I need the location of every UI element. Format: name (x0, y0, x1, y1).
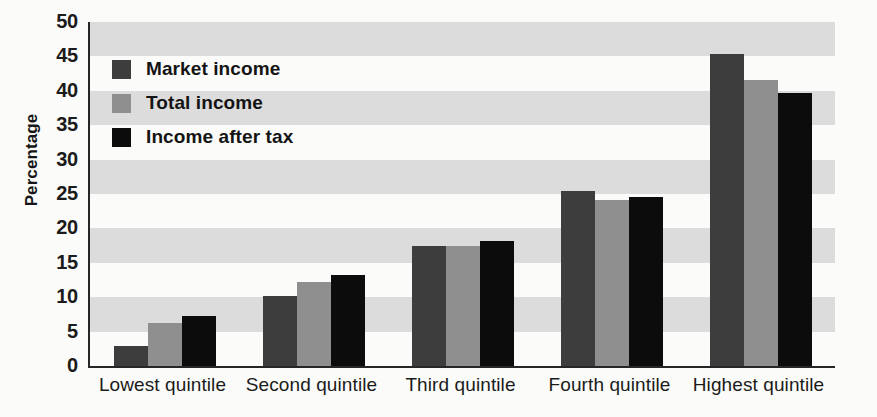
legend-item: Market income (112, 52, 293, 86)
y-tick-label: 30 (56, 147, 78, 170)
bar (297, 282, 331, 366)
x-axis-label: Highest quintile (684, 374, 833, 396)
legend-label: Total income (146, 92, 263, 114)
y-tick-label: 40 (56, 79, 78, 102)
x-axis-label: Fourth quintile (535, 374, 684, 396)
bar (629, 197, 663, 366)
legend-label: Income after tax (146, 126, 293, 148)
bar (114, 346, 148, 366)
x-axis-label: Third quintile (386, 374, 535, 396)
bar (778, 93, 812, 366)
bar-group (537, 22, 686, 366)
y-tick-label: 45 (56, 44, 78, 67)
x-axis-label: Lowest quintile (88, 374, 237, 396)
bar (744, 80, 778, 366)
legend-item: Income after tax (112, 120, 293, 154)
chart-legend: Market incomeTotal incomeIncome after ta… (112, 52, 293, 154)
y-tick-label: 5 (67, 319, 78, 342)
y-tick-label: 25 (56, 182, 78, 205)
legend-swatch-icon (112, 128, 131, 147)
x-axis-label: Second quintile (237, 374, 386, 396)
bar (412, 246, 446, 366)
legend-swatch-icon (112, 60, 131, 79)
bar-group (686, 22, 835, 366)
bar (263, 296, 297, 366)
y-tick-label: 35 (56, 113, 78, 136)
bar (331, 275, 365, 367)
bar (561, 191, 595, 366)
bar (595, 200, 629, 366)
y-tick-label: 15 (56, 251, 78, 274)
y-tick-label: 0 (67, 354, 78, 377)
bar (710, 54, 744, 366)
bar-group (388, 22, 537, 366)
y-axis-tick-labels: 05101520253035404550 (0, 0, 88, 417)
x-axis-category-labels: Lowest quintileSecond quintileThird quin… (88, 374, 833, 414)
y-tick-label: 20 (56, 216, 78, 239)
bar-chart-figure: Percentage 05101520253035404550 Market i… (0, 0, 877, 417)
legend-label: Market income (146, 58, 280, 80)
y-tick-label: 10 (56, 285, 78, 308)
y-tick-label: 50 (56, 10, 78, 33)
legend-swatch-icon (112, 94, 131, 113)
bar (182, 316, 216, 366)
legend-item: Total income (112, 86, 293, 120)
bar (480, 241, 514, 366)
bar (148, 323, 182, 366)
bar (446, 246, 480, 366)
